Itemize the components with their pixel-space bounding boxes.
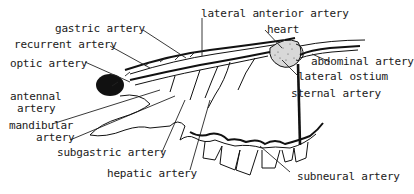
label-sternal-artery: sternal artery xyxy=(291,88,381,100)
limb-6 xyxy=(294,142,308,162)
label-optic-artery: optic artery xyxy=(10,58,87,70)
carapace-edge xyxy=(300,40,365,46)
limb-4 xyxy=(262,150,280,168)
label-hepatic-artery: hepatic artery xyxy=(107,168,197,180)
limb-3 xyxy=(236,150,258,175)
label-gastric-artery: gastric artery xyxy=(55,23,145,35)
head-outline xyxy=(90,95,150,136)
label-antennal-artery-line2: artery xyxy=(17,103,56,115)
leader-mandibular xyxy=(70,96,175,140)
branch-e xyxy=(170,76,175,92)
branch-a xyxy=(208,62,230,108)
leader-gastric xyxy=(143,30,186,58)
limb-5 xyxy=(282,148,294,162)
label-abdominal-artery: abdominal artery xyxy=(311,56,414,68)
label-heart: heart xyxy=(267,24,299,36)
label-mandibular-artery-line2: artery xyxy=(36,132,75,144)
label-lateral-anterior-artery: lateral anterior artery xyxy=(201,8,349,20)
dorsal-outline-2 xyxy=(130,42,292,74)
label-lateral-ostium: lateral ostium xyxy=(298,71,388,83)
branch-d xyxy=(238,58,255,90)
branch-c xyxy=(190,70,200,100)
limb-1 xyxy=(203,142,222,160)
label-recurrent-artery: recurrent artery xyxy=(14,39,117,51)
subneural-artery-line xyxy=(190,123,323,144)
label-subgastric-artery: subgastric artery xyxy=(57,147,166,159)
ventral-outline xyxy=(150,122,195,140)
label-subneural-artery: subneural artery xyxy=(297,171,400,183)
